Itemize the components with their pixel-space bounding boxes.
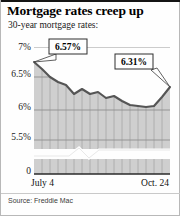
source-divider <box>1 193 180 194</box>
callout-last-label: 6.31% <box>121 57 147 67</box>
plot-area: 6.57% 6.31% <box>1 32 180 180</box>
chart-svg: 6.57% 6.31% <box>1 32 180 180</box>
callout-first-label: 6.57% <box>55 42 81 52</box>
chart-subtitle: 30-year mortgage rates: <box>8 20 98 30</box>
source-note: Source: Freddie Mac <box>8 197 73 204</box>
page-title: Mortgage rates creep up <box>7 3 177 18</box>
x-axis-start-label: July 4 <box>31 178 54 188</box>
top-rule <box>1 0 180 2</box>
chart-card: Mortgage rates creep up 30-year mortgage… <box>0 0 180 216</box>
x-axis-end-label: Oct. 24 <box>141 178 169 188</box>
